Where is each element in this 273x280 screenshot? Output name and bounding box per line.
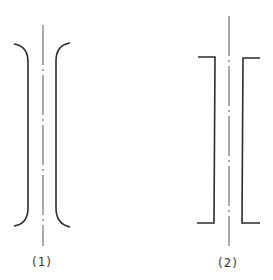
figure-1-left-bracket: [14, 44, 28, 226]
figure-2-label: (2): [208, 256, 248, 270]
figure-2-right-bracket: [242, 58, 260, 223]
diagram-canvas: [0, 0, 273, 280]
figure-1-right-bracket: [56, 43, 70, 227]
figure-1-label: (1): [22, 255, 62, 269]
figure-2-left-bracket: [197, 57, 215, 223]
figure-1: [14, 25, 70, 246]
figure-2: [197, 16, 260, 246]
